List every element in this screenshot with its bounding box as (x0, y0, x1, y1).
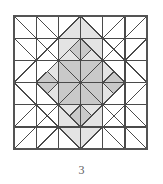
diag-r5c4-a (103, 127, 125, 149)
figure-caption: 3 (0, 163, 163, 177)
diag-c0r1-a (14, 38, 36, 60)
diag-c5r1-a (125, 38, 147, 60)
quilt-block-svg (0, 0, 163, 184)
diag-r0c4-a (103, 16, 125, 38)
diag-c0r2-a (14, 60, 36, 82)
diag-c0r3-a (14, 83, 36, 105)
diag-r5c1-a (36, 127, 58, 149)
diag-r0c1-a (36, 16, 58, 38)
diag-c5r4-a (125, 105, 147, 127)
diag-c5r2-a (125, 60, 147, 82)
figure-root: 3 (0, 0, 163, 184)
diag-c5r3-a (125, 83, 147, 105)
diag-c0r4-a (14, 105, 36, 127)
